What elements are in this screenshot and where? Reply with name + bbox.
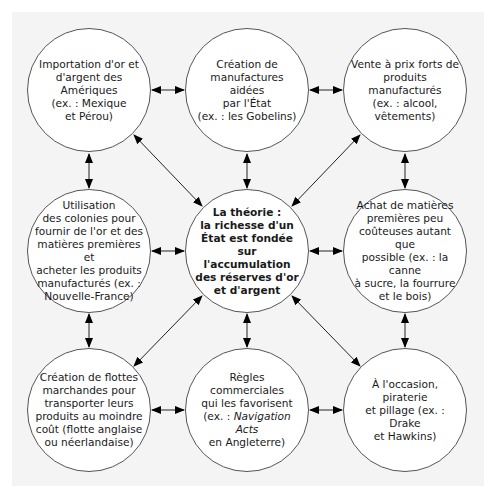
node-label: Achat de matières premières peu coûteuse… xyxy=(344,199,466,303)
node-theory-center: La théorie : la richesse d'un État est f… xyxy=(185,189,309,313)
arrow-import-theory xyxy=(134,135,202,206)
node-label: Vente à prix forts de produits manufactu… xyxy=(344,58,466,123)
node-label: Création de manufactures aidées par l'Ét… xyxy=(186,58,308,123)
arrow-sell-theory xyxy=(292,135,360,206)
node-import-gold: Importation d'or et d'argent des Amériqu… xyxy=(27,28,151,152)
node-label: Utilisation des colonies pour fournir de… xyxy=(28,199,150,303)
arrow-piracy-theory xyxy=(292,296,360,366)
node-colonies: Utilisation des colonies pour fournir de… xyxy=(27,189,151,313)
label-italic: Navigation Acts xyxy=(234,410,291,435)
node-raw-materials: Achat de matières premières peu coûteuse… xyxy=(343,189,467,313)
node-fleets: Création de flottes marchandes pour tran… xyxy=(27,348,151,472)
node-label: Importation d'or et d'argent des Amériqu… xyxy=(28,58,150,123)
node-label: La théorie : la richesse d'un État est f… xyxy=(186,206,308,297)
node-manufactures: Création de manufactures aidées par l'Ét… xyxy=(185,28,309,152)
node-piracy: À l'occasion, piraterie et pillage (ex. … xyxy=(343,348,467,472)
arrow-fleets-theory xyxy=(134,296,202,366)
node-label: Création de flottes marchandes pour tran… xyxy=(29,371,148,449)
node-label: Règles commerciales qui les favorisent (… xyxy=(186,371,308,449)
node-label: À l'occasion, piraterie et pillage (ex. … xyxy=(344,378,466,443)
node-trade-rules: Règles commerciales qui les favorisent (… xyxy=(185,348,309,472)
node-sell-high: Vente à prix forts de produits manufactu… xyxy=(343,28,467,152)
label-part: en Angleterre) xyxy=(209,436,285,448)
